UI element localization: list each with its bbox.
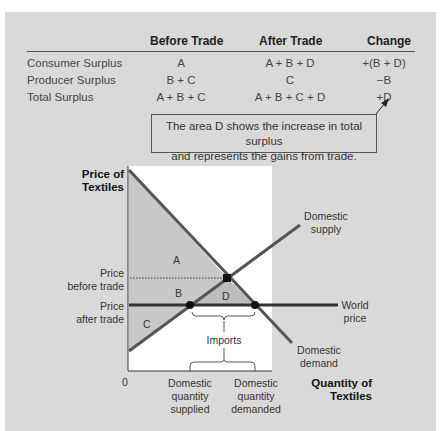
qd-label-1: Domestic [226, 377, 286, 390]
world-price-label-1: World [337, 299, 373, 312]
surplus-graph [0, 0, 448, 431]
supply-label-1: Domestic [296, 210, 356, 223]
qd-label-3: demanded [226, 403, 286, 416]
demand-label-2: demand [289, 357, 349, 370]
y-axis-title-1: Price of [64, 168, 124, 181]
qs-label-3: supplied [162, 403, 218, 416]
supply-label-2: supply [296, 223, 356, 236]
price-before-label-2: before trade [60, 280, 124, 293]
area-a-label: A [173, 254, 180, 267]
price-after-label-2: after trade [60, 313, 124, 326]
x-axis-title-2: Textiles [300, 390, 372, 403]
area-b-label: B [175, 287, 182, 300]
demanded-point [251, 301, 259, 309]
price-after-label-1: Price [60, 300, 124, 313]
demand-label-1: Domestic [289, 344, 349, 357]
area-d-label: D [222, 290, 230, 303]
x-axis-title-1: Quantity of [300, 377, 372, 390]
y-axis-title-2: Textiles [64, 181, 124, 194]
origin-label: 0 [122, 376, 128, 389]
qd-label-2: quantity [226, 390, 286, 403]
equilibrium-point [223, 274, 231, 282]
world-price-label-2: price [337, 312, 373, 325]
qs-label-2: quantity [162, 390, 218, 403]
area-c-label: C [143, 318, 151, 331]
supplied-point [186, 301, 194, 309]
price-before-label-1: Price [60, 267, 124, 280]
imports-label: Imports [200, 334, 248, 347]
callout-arrow-head [381, 98, 389, 107]
qs-label-1: Domestic [162, 377, 218, 390]
